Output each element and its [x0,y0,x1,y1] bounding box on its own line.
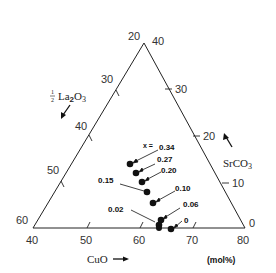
bottom-tick-80: 80 [237,234,249,246]
left-axis-ticks [61,90,119,187]
sr-sub-3: 3 [248,162,252,171]
point-x-0.34 [127,161,134,168]
point-x-0.20 [139,179,146,186]
point-x-0.02b [156,225,162,231]
right-tick-30: 30 [175,83,187,95]
half-numerator: 1 [51,89,54,95]
label-0.02: 0.02 [108,205,124,214]
label-0.06: 0.06 [183,200,199,209]
label-0.10: 0.10 [175,184,191,193]
label-0.27: 0.27 [157,155,173,164]
bottom-tick-50: 50 [80,234,92,246]
srco3-component-label: SrCO3 [223,157,252,171]
left-tick-50: 50 [47,164,59,176]
ternary-phase-diagram: 20 40 30 40 50 60 30 20 10 0 40 50 60 70… [0,0,276,273]
half-denominator: 2 [51,97,54,103]
x-prefix-label: x = [143,142,153,149]
apex-left-label: 20 [128,30,140,42]
point-x-0 [168,226,175,233]
left-tick-30: 30 [101,73,113,85]
units-label: (mol%) [207,255,236,265]
la-sub-3: 3 [82,95,86,104]
point-x-0.27 [133,170,140,177]
label-0.15: 0.15 [98,176,114,185]
label-0: 0 [184,216,189,225]
arrow-down-left-icon [61,105,70,119]
left-tick-40: 40 [75,120,87,132]
svg-text:La2O3: La2O3 [58,90,86,104]
apex-right-label: 40 [152,35,164,47]
label-0.20: 0.20 [161,166,177,175]
la2o3-component-label: 1 2 La2O3 [50,89,86,104]
arrow-right-icon [113,257,129,262]
arrow-up-left-icon [223,133,232,147]
right-tick-10: 10 [232,177,244,189]
right-tick-20: 20 [203,130,215,142]
sr-formula: SrCO [223,157,248,169]
point-x-0.10 [150,200,157,207]
la-symbol: La [58,90,70,102]
bottom-tick-70: 70 [186,234,198,246]
la-o: O [74,90,82,102]
bottom-tick-60: 60 [133,234,145,246]
cuo-component-label: CuO [87,253,108,265]
label-0.34: 0.34 [159,143,175,152]
point-x-0.15 [144,189,151,196]
bottom-tick-40: 40 [26,234,38,246]
right-tick-0: 0 [249,217,255,229]
left-tick-60: 60 [16,214,28,226]
